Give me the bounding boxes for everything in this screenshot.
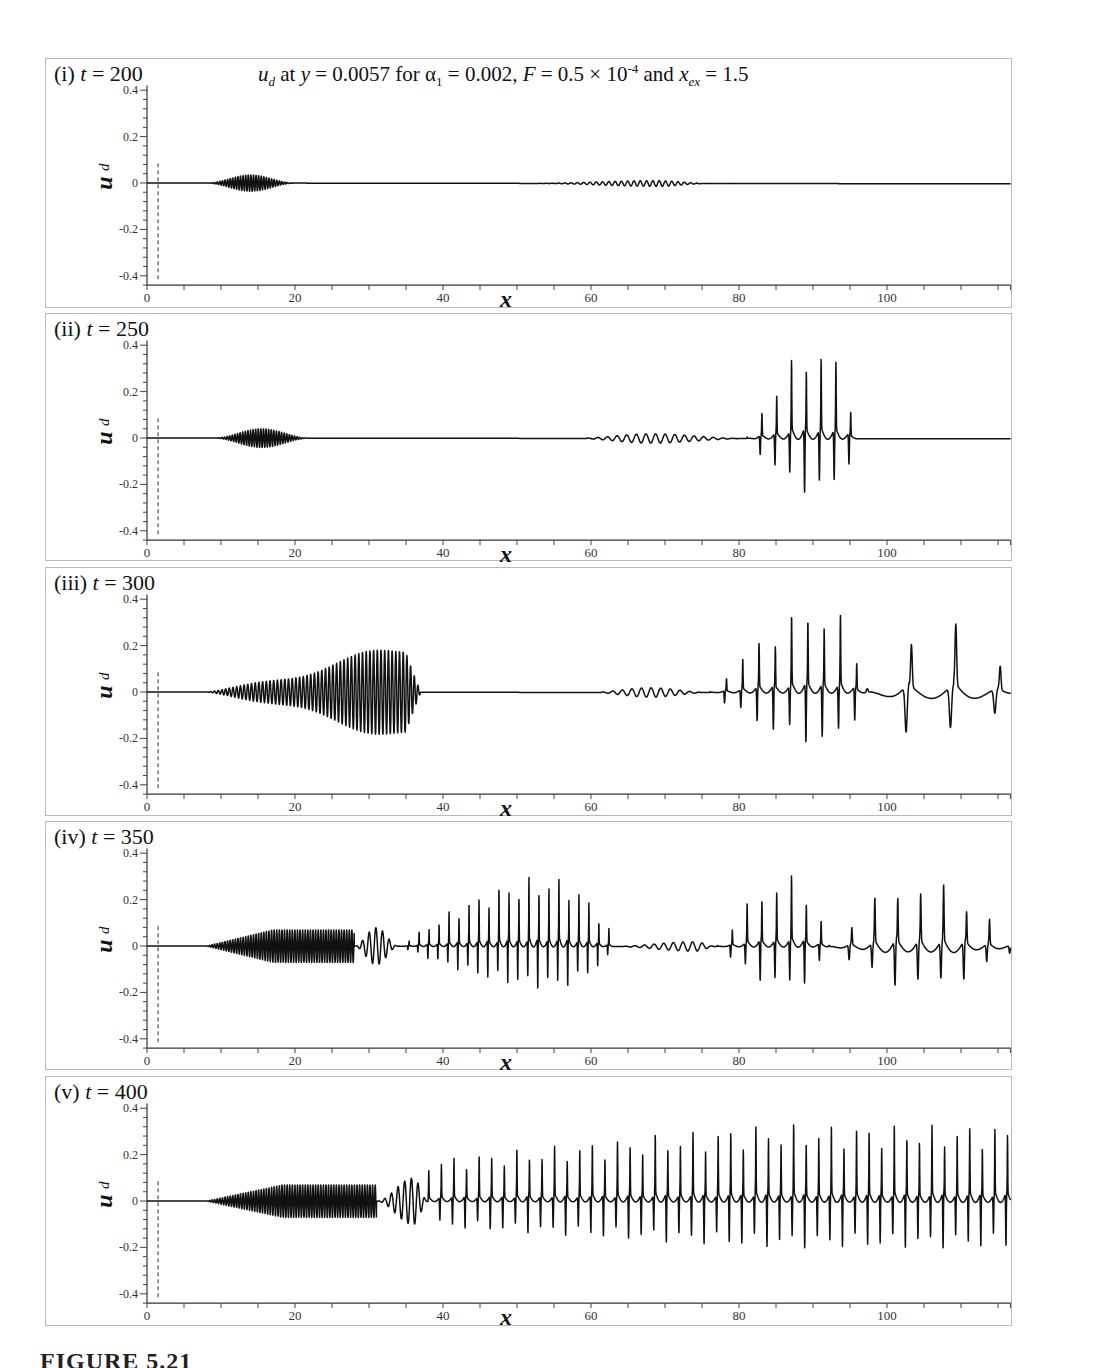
plot-area: 0.40.20-0.2-0.4ud020406080100x: [46, 1077, 1013, 1327]
svg-text:u: u: [91, 685, 117, 698]
svg-text:0: 0: [132, 685, 138, 699]
svg-text:-0.4: -0.4: [119, 1032, 138, 1046]
svg-text:0: 0: [144, 545, 151, 560]
plot-area: 0.40.20-0.2-0.4ud020406080100x: [46, 314, 1013, 562]
svg-text:0.2: 0.2: [123, 1148, 138, 1162]
figure-caption: FIGURE 5.21: [40, 1346, 192, 1368]
svg-text:-0.4: -0.4: [119, 524, 138, 538]
svg-text:0: 0: [144, 1308, 151, 1323]
svg-text:80: 80: [733, 290, 746, 305]
svg-text:x: x: [499, 1049, 512, 1071]
svg-text:20: 20: [289, 290, 302, 305]
panel-ii: (ii) t = 250 0.40.20-0.2-0.4ud0204060801…: [45, 313, 1012, 561]
svg-text:20: 20: [289, 1308, 302, 1323]
panel-iv: (iv) t = 350 0.40.20-0.2-0.4ud0204060801…: [45, 821, 1012, 1070]
svg-text:40: 40: [437, 1308, 450, 1323]
svg-text:100: 100: [877, 290, 897, 305]
svg-text:100: 100: [877, 1053, 897, 1068]
svg-text:20: 20: [289, 799, 302, 814]
svg-text:u: u: [91, 431, 117, 444]
svg-text:60: 60: [585, 1308, 598, 1323]
svg-text:60: 60: [585, 545, 598, 560]
svg-text:20: 20: [289, 1053, 302, 1068]
svg-text:0: 0: [132, 431, 138, 445]
svg-text:d: d: [96, 672, 112, 680]
svg-text:0.4: 0.4: [123, 83, 138, 97]
svg-text:d: d: [96, 418, 112, 426]
svg-text:100: 100: [877, 1308, 897, 1323]
svg-text:x: x: [499, 795, 512, 817]
svg-text:0: 0: [132, 939, 138, 953]
svg-text:-0.2: -0.2: [119, 222, 138, 236]
svg-text:-0.2: -0.2: [119, 985, 138, 999]
svg-text:-0.2: -0.2: [119, 477, 138, 491]
plot-area: 0.40.20-0.2-0.4ud020406080100x: [46, 568, 1013, 817]
svg-text:x: x: [499, 1304, 512, 1327]
svg-text:40: 40: [437, 799, 450, 814]
svg-text:80: 80: [733, 545, 746, 560]
plot-area: 0.40.20-0.2-0.4ud020406080100x: [46, 822, 1013, 1071]
svg-text:-0.2: -0.2: [119, 731, 138, 745]
svg-text:60: 60: [585, 290, 598, 305]
svg-text:0.4: 0.4: [123, 338, 138, 352]
svg-text:0.2: 0.2: [123, 639, 138, 653]
svg-text:-0.4: -0.4: [119, 269, 138, 283]
svg-text:40: 40: [437, 1053, 450, 1068]
plot-area: 0.40.20-0.2-0.4ud020406080100x: [46, 59, 1013, 309]
svg-text:0.4: 0.4: [123, 1101, 138, 1115]
panel-v: (v) t = 400 0.40.20-0.2-0.4ud02040608010…: [45, 1076, 1012, 1326]
svg-text:40: 40: [437, 545, 450, 560]
svg-text:0: 0: [144, 799, 151, 814]
svg-text:u: u: [91, 939, 117, 952]
svg-text:-0.2: -0.2: [119, 1240, 138, 1254]
panel-i: (i) t = 200 ud at y = 0.0057 for α1 = 0.…: [45, 58, 1012, 308]
svg-text:100: 100: [877, 545, 897, 560]
svg-text:60: 60: [585, 799, 598, 814]
svg-text:d: d: [96, 926, 112, 934]
svg-text:d: d: [96, 163, 112, 171]
svg-text:0.2: 0.2: [123, 385, 138, 399]
svg-text:u: u: [91, 1194, 117, 1207]
svg-text:0.4: 0.4: [123, 846, 138, 860]
svg-text:0: 0: [132, 176, 138, 190]
svg-text:d: d: [96, 1181, 112, 1189]
svg-text:80: 80: [733, 1308, 746, 1323]
svg-text:x: x: [499, 286, 512, 309]
svg-text:80: 80: [733, 799, 746, 814]
svg-text:80: 80: [733, 1053, 746, 1068]
svg-text:100: 100: [877, 799, 897, 814]
svg-text:-0.4: -0.4: [119, 1287, 138, 1301]
svg-text:0: 0: [144, 290, 151, 305]
svg-text:0.4: 0.4: [123, 592, 138, 606]
svg-text:60: 60: [585, 1053, 598, 1068]
svg-text:-0.4: -0.4: [119, 778, 138, 792]
svg-text:u: u: [91, 176, 117, 189]
svg-text:40: 40: [437, 290, 450, 305]
svg-text:0.2: 0.2: [123, 893, 138, 907]
svg-text:x: x: [499, 541, 512, 562]
svg-text:0.2: 0.2: [123, 130, 138, 144]
panel-iii: (iii) t = 300 0.40.20-0.2-0.4ud020406080…: [45, 567, 1012, 816]
svg-text:0: 0: [144, 1053, 151, 1068]
svg-text:20: 20: [289, 545, 302, 560]
svg-text:0: 0: [132, 1194, 138, 1208]
